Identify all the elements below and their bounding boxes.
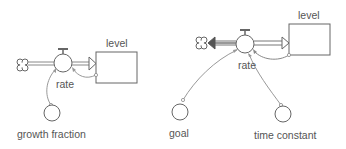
connector-arrow-icon bbox=[248, 53, 252, 57]
stock-level-box[interactable] bbox=[289, 24, 330, 55]
stock-level-box[interactable] bbox=[96, 52, 137, 83]
left-aux-label-growth-fraction: growth fraction bbox=[17, 129, 86, 140]
connector-goal-to-rate bbox=[183, 50, 237, 100]
connector-growth-to-rate bbox=[47, 70, 55, 105]
right-flow-label: rate bbox=[238, 60, 256, 71]
right-aux-label-goal: goal bbox=[169, 128, 189, 139]
right-stock-label: level bbox=[298, 10, 320, 21]
flow-arrow-icon bbox=[89, 57, 96, 70]
left-stock-label: level bbox=[106, 38, 128, 49]
cloud-icon bbox=[17, 59, 28, 71]
aux-goal[interactable] bbox=[172, 104, 188, 120]
valve-icon[interactable] bbox=[54, 49, 72, 72]
left-model bbox=[17, 49, 137, 121]
cloud-icon bbox=[196, 37, 207, 49]
aux-time-constant[interactable] bbox=[275, 106, 291, 122]
aux-growth-fraction[interactable] bbox=[44, 105, 60, 121]
flow-arrow-icon bbox=[282, 37, 289, 49]
connector-arrow-icon bbox=[233, 49, 238, 53]
right-aux-label-time-constant: time constant bbox=[254, 130, 316, 141]
connector-level-to-rate bbox=[254, 51, 289, 59]
flow-arrow-icon bbox=[208, 37, 215, 49]
valve-icon[interactable] bbox=[236, 30, 254, 53]
connector-level-to-rate bbox=[73, 69, 96, 77]
left-flow-label: rate bbox=[56, 79, 74, 90]
right-model bbox=[172, 24, 330, 122]
